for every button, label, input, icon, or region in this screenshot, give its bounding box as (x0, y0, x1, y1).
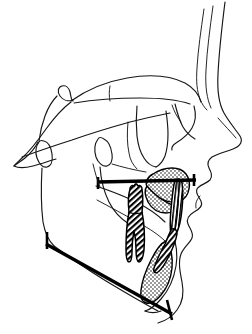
cephalometric-tracing-svg (0, 0, 252, 334)
figure-background (0, 0, 252, 334)
occlusal-plane-line (97, 180, 196, 182)
cephalometric-figure: Lateral cephalometric tracing (0, 0, 252, 334)
